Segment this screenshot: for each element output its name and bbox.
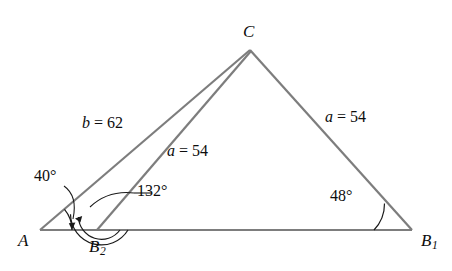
- angle-arc-B1: [374, 204, 385, 231]
- vertex-label-B1-text: B: [421, 231, 431, 250]
- angle-label-132: 132°: [137, 183, 167, 199]
- geometry-figure: C A B2 B1 b = 62 a = 54 a = 54 40° 132° …: [0, 0, 452, 271]
- side-label-a-inner-variable: a: [167, 142, 175, 159]
- vertex-label-B2-text: B: [89, 237, 99, 256]
- angle-label-48: 48°: [330, 188, 352, 204]
- side-label-b: b = 62: [82, 115, 123, 131]
- vertex-label-A: A: [18, 232, 28, 249]
- segment-A-C: [40, 50, 250, 230]
- side-label-a-right-equals: =: [333, 108, 350, 125]
- side-label-a-right-variable: a: [325, 108, 333, 125]
- vertex-label-C-text: C: [243, 22, 254, 41]
- vertex-label-B2-subscript: 2: [99, 245, 105, 257]
- vertex-label-B2: B2: [89, 238, 106, 258]
- vertex-label-A-text: A: [18, 231, 28, 250]
- side-label-b-equals: =: [90, 114, 107, 131]
- vertex-label-B1-subscript: 1: [431, 239, 437, 251]
- vertex-label-C: C: [243, 23, 254, 40]
- angle-label-40: 40°: [34, 168, 56, 184]
- triangle-diagram-svg: [0, 0, 452, 271]
- side-label-b-variable: b: [82, 114, 90, 131]
- side-label-a-inner-value: 54: [192, 142, 208, 159]
- vertex-label-B1: B1: [421, 232, 438, 252]
- side-label-a-inner-equals: =: [175, 142, 192, 159]
- side-label-b-value: 62: [107, 114, 123, 131]
- side-label-a-right-value: 54: [350, 108, 366, 125]
- segment-B2-C: [97, 51, 251, 230]
- side-label-a-inner: a = 54: [167, 143, 208, 159]
- side-label-a-right: a = 54: [325, 109, 366, 125]
